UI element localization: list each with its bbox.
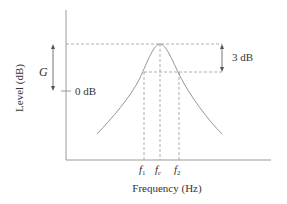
gain-label: G <box>39 65 48 79</box>
y-axis-label: Level (dB) <box>13 64 26 112</box>
x-axis-label: Frequency (Hz) <box>132 182 202 195</box>
bandwidth-arrow-up-head <box>220 44 224 49</box>
zero-db-label: 0 dB <box>75 85 96 97</box>
bandwidth-3db-label: 3 dB <box>232 51 253 63</box>
response-curve <box>97 44 222 134</box>
gain-arrow-up-head <box>51 44 55 49</box>
f2-label: f2 <box>174 163 181 177</box>
gain-arrow-down-head <box>51 86 55 91</box>
f1-label: f1 <box>139 163 146 177</box>
bandwidth-arrow-down-head <box>220 67 224 72</box>
fc-label: fc <box>155 163 162 177</box>
filter-response-diagram: G 0 dB 3 dB Level (dB) Frequency (Hz) f1… <box>0 0 287 204</box>
